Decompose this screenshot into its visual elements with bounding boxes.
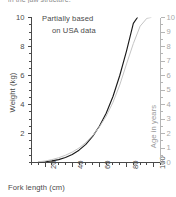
plot-area [0,0,176,197]
series-group [38,18,151,163]
series-line-age [38,18,151,162]
axes-group [28,18,165,167]
chart-figure: in the jaw structure. Partially based on… [0,0,176,197]
